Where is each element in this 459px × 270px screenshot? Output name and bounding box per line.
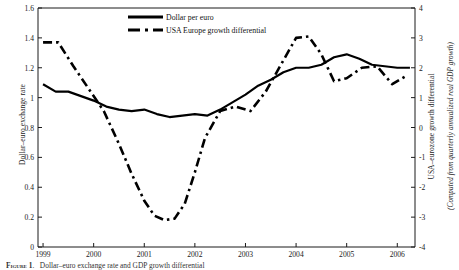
- y-left-tick-0.8: 0.8: [4, 123, 34, 132]
- y-right-tick-1: 1: [419, 93, 441, 102]
- y-right-tick--2: -2: [419, 183, 441, 192]
- y-left-tick-0.6: 0.6: [4, 153, 34, 162]
- axis-frame: [38, 8, 415, 247]
- x-ticks: [43, 243, 397, 247]
- x-tick-2000: 2000: [86, 250, 101, 259]
- figure-caption: Figure 1. Dollar–euro exchange rate and …: [6, 261, 458, 270]
- legend-swatches: [128, 17, 163, 30]
- y-right-tick--1: -1: [419, 153, 441, 162]
- series-line-growth-differential: [43, 36, 407, 220]
- data-series-layer: [43, 36, 410, 220]
- caption-text: Dollar–euro exchange rate and GDP growth…: [40, 261, 205, 270]
- x-tick-2001: 2001: [137, 250, 152, 259]
- y-right-tick-2: 2: [419, 63, 441, 72]
- y-right-tick--4: -4: [419, 243, 441, 252]
- y-right-tick-4: 4: [419, 4, 441, 13]
- x-tick-2002: 2002: [187, 250, 202, 259]
- caption-separator: .: [32, 261, 39, 270]
- y-left-ticks: [38, 8, 42, 247]
- y-left-tick-1.2: 1.2: [4, 63, 34, 72]
- y-left-tick-1.6: 1.6: [4, 4, 34, 13]
- y-right-tick--3: -3: [419, 213, 441, 222]
- caption-number: Figure 1: [6, 261, 32, 270]
- legend-item-dollar-per-euro: Dollar per euro: [166, 13, 214, 22]
- y-right-tick-3: 3: [419, 33, 441, 42]
- x-tick-2006: 2006: [390, 250, 405, 259]
- x-tick-2003: 2003: [238, 250, 253, 259]
- y-left-tick-0: 0: [4, 243, 34, 252]
- x-tick-1999: 1999: [35, 250, 50, 259]
- y-right-ticks: [411, 8, 415, 247]
- x-tick-2005: 2005: [339, 250, 354, 259]
- legend-item-growth-differential: USA Europe growth differential: [166, 26, 266, 35]
- y-left-tick-0.2: 0.2: [4, 213, 34, 222]
- y-left-tick-1: 1: [4, 93, 34, 102]
- y-left-tick-1.4: 1.4: [4, 33, 34, 42]
- y-axis-right-subtitle: (Computed from quarterly annualized real…: [447, 42, 455, 210]
- y-left-tick-0.4: 0.4: [4, 183, 34, 192]
- series-line-dollar-per-euro: [43, 54, 410, 117]
- y-right-tick-0: 0: [419, 123, 441, 132]
- x-tick-2004: 2004: [288, 250, 303, 259]
